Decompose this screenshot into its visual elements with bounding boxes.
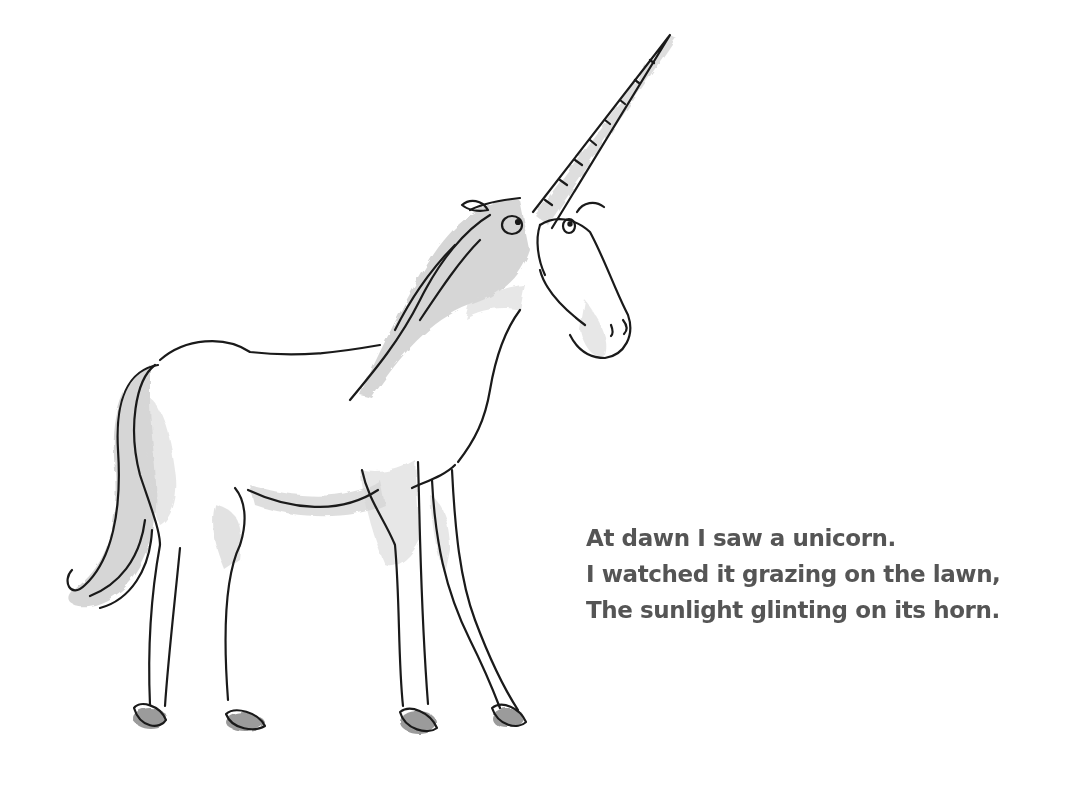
storybook-page: At dawn I saw a unicorn. I watched it gr… <box>0 0 1076 790</box>
unicorn-illustration <box>0 0 1076 790</box>
poem-line-1: At dawn I saw a unicorn. <box>586 520 1000 556</box>
poem-line-3: The sunlight glinting on its horn. <box>586 592 1000 628</box>
poem-line-2: I watched it grazing on the lawn, <box>586 556 1000 592</box>
poem-text: At dawn I saw a unicorn. I watched it gr… <box>586 520 1000 628</box>
watercolor-wash <box>69 35 676 733</box>
